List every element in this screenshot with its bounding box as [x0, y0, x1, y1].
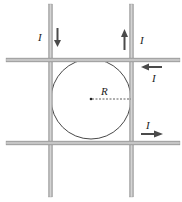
- current-label-left-wire: I: [37, 31, 43, 43]
- bottom-horizontal-wire: [6, 141, 180, 145]
- wires-circle-diagram: R I I I I: [0, 0, 182, 202]
- right-vertical-wire: [130, 4, 134, 197]
- circle-center-dot: [90, 98, 93, 101]
- arrow-left-icon: [141, 64, 162, 71]
- arrow-down-icon: [54, 28, 61, 47]
- arrow-right-icon: [141, 131, 163, 138]
- current-label-bottom-wire: I: [145, 119, 151, 131]
- top-horizontal-wire: [6, 58, 180, 62]
- arrow-up-icon: [121, 29, 128, 50]
- left-vertical-wire: [49, 4, 53, 197]
- current-label-top-wire: I: [151, 72, 157, 84]
- radius-label: R: [100, 85, 108, 97]
- current-label-right-wire: I: [139, 34, 145, 46]
